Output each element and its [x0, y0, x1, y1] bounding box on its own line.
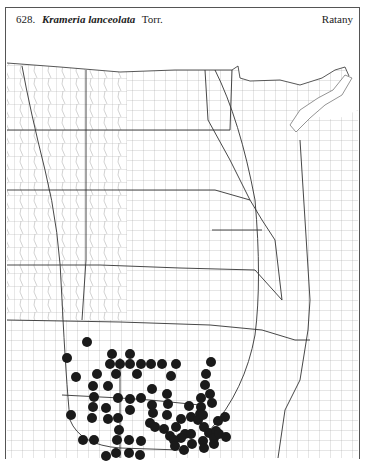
occurrence-dot	[207, 398, 217, 408]
occurrence-dot	[87, 413, 97, 423]
occurrence-dot	[163, 399, 173, 409]
occurrence-dot	[221, 432, 231, 442]
occurrence-dot	[101, 451, 111, 461]
occurrence-dot	[206, 357, 216, 367]
occurrence-dot	[171, 422, 181, 432]
occurrence-dot	[107, 349, 117, 359]
occurrence-dot	[125, 394, 135, 404]
occurrence-dot	[113, 413, 123, 423]
occurrence-dot	[124, 435, 134, 445]
occurrence-dot	[71, 372, 81, 382]
occurrence-dot	[89, 392, 99, 402]
occurrence-dot	[186, 429, 196, 439]
occurrence-dot	[135, 450, 145, 460]
occurrence-dot	[170, 441, 180, 451]
occurrence-dot	[198, 410, 208, 420]
occurrence-dot	[78, 435, 88, 445]
occurrence-dot	[209, 439, 219, 449]
occurrence-dot	[92, 369, 102, 379]
occurrence-dot	[125, 359, 135, 369]
occurrence-dot	[105, 359, 115, 369]
occurrence-dot	[124, 448, 134, 458]
occurrence-dot	[136, 359, 146, 369]
occurrence-dot	[150, 422, 160, 432]
occurrence-dot	[101, 403, 111, 413]
occurrence-dot	[88, 381, 98, 391]
occurrence-dot	[146, 359, 156, 369]
occurrence-dot	[199, 443, 209, 453]
occurrence-dot	[136, 393, 146, 403]
occurrence-dot	[162, 410, 172, 420]
occurrence-dot	[184, 401, 194, 411]
occurrence-dot	[157, 359, 167, 369]
occurrence-dot	[162, 389, 172, 399]
occurrence-dot	[89, 435, 99, 445]
occurrence-dot	[205, 389, 215, 399]
occurrence-dot	[113, 393, 123, 403]
occurrence-dot	[115, 359, 125, 369]
occurrence-dot	[88, 402, 98, 412]
occurrence-dot	[82, 337, 92, 347]
occurrence-dot	[179, 445, 189, 455]
occurrence-dot	[125, 405, 135, 415]
occurrence-dot	[213, 416, 223, 426]
occurrence-dot	[148, 408, 158, 418]
occurrence-dot	[114, 425, 124, 435]
occurrence-dot	[196, 393, 206, 403]
occurrence-dot	[103, 381, 113, 391]
occurrence-dot	[125, 349, 135, 359]
distribution-map	[0, 0, 365, 462]
occurrence-dot	[103, 414, 113, 424]
occurrence-dot	[147, 384, 157, 394]
occurrence-dot	[187, 439, 197, 449]
occurrence-dot	[200, 380, 210, 390]
occurrence-dot	[111, 369, 121, 379]
occurrence-dot	[132, 369, 142, 379]
occurrence-dot	[62, 353, 72, 363]
occurrence-dot	[171, 359, 181, 369]
occurrence-dot	[66, 410, 76, 420]
occurrence-dot	[111, 448, 121, 458]
occurrence-dot	[166, 371, 176, 381]
occurrence-dot	[136, 436, 146, 446]
occurrence-dot	[112, 435, 122, 445]
occurrence-dot	[201, 369, 211, 379]
